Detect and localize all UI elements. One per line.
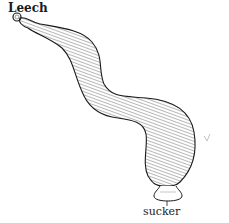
label-sucker: sucker [143, 205, 180, 218]
leech-body [0, 0, 229, 223]
mark-v [204, 134, 210, 141]
leech-illustration [0, 0, 229, 223]
leech-sucker [154, 186, 182, 201]
